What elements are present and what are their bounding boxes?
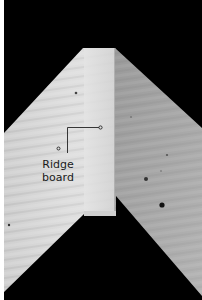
ridge-board — [84, 48, 115, 214]
ridge-board-label-line2: board — [33, 171, 83, 184]
knot — [144, 177, 148, 181]
ridge-board-label-line1: Ridge — [33, 158, 83, 171]
ridge-board-label: Ridge board — [33, 158, 83, 184]
leader-end-circle — [99, 126, 102, 129]
ridge-bottom-edge — [84, 211, 116, 216]
left-margin — [0, 0, 4, 300]
leader-start-circle — [57, 147, 60, 150]
roof-ridge-figure: Ridge board — [0, 0, 202, 300]
knot — [130, 116, 132, 118]
knot — [8, 224, 10, 226]
knot — [75, 92, 78, 95]
knot — [166, 154, 168, 156]
knot — [159, 202, 164, 207]
knot — [160, 170, 162, 172]
